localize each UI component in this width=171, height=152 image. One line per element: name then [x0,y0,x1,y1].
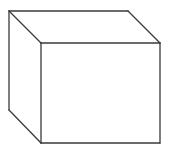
edge-top-right-diagonal [128,11,160,43]
edge-bottom-left-diagonal [9,110,41,143]
cube-drawing [0,0,171,152]
edge-top-left-diagonal [9,11,41,43]
